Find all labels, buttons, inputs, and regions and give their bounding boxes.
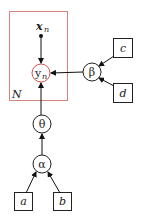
x-sub: n (44, 25, 49, 34)
y-label: y (34, 67, 42, 80)
edge-d-beta (99, 78, 114, 86)
edge-c-beta (99, 56, 114, 66)
node-c: c (114, 39, 133, 58)
y-sub: n (42, 72, 47, 81)
node-b: b (54, 193, 72, 211)
node-alpha: α (33, 155, 51, 173)
edge-a-alpha (26, 172, 36, 193)
x-label: x (35, 20, 43, 33)
graphical-model-diagram: N x n y n β θ α c d a b (0, 0, 144, 217)
node-theta: θ (33, 115, 51, 133)
b-label: b (59, 195, 66, 208)
node-d: d (114, 84, 133, 103)
beta-label: β (89, 66, 95, 79)
d-label: d (119, 87, 126, 100)
node-x-n: x n (35, 20, 49, 38)
plate-label: N (11, 88, 22, 101)
theta-label: θ (39, 118, 46, 131)
edge-b-alpha (48, 172, 60, 193)
a-label: a (20, 195, 27, 208)
edge-beta-y (51, 72, 83, 73)
c-label: c (120, 42, 126, 55)
node-a: a (15, 193, 33, 211)
node-beta: β (83, 63, 101, 81)
node-y-n: y n (32, 64, 50, 82)
alpha-label: α (38, 158, 46, 171)
